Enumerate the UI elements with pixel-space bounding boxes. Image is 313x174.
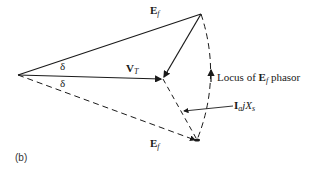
delta-top-label: δ [60,61,65,72]
ef-bottom-phasor [18,75,195,140]
locus-label: Locus of Ef phasor [217,72,300,83]
ef-top-phasor [18,14,201,75]
panel-label: (b) [15,153,27,163]
locus-arc [197,14,211,140]
iajxs-bottom-phasor [163,79,196,138]
delta-bottom-label: δ [60,78,65,89]
iajxs-leader [184,106,233,111]
vt-phasor [18,75,161,79]
ef-bottom-vertex [194,139,200,142]
iajxs-label: IajXs [234,100,255,111]
iajxs-top-phasor [164,14,201,77]
ef-top-label: Ef [150,5,160,16]
ef-bottom-label: Ef [150,138,160,149]
vt-label: VT [126,63,138,74]
